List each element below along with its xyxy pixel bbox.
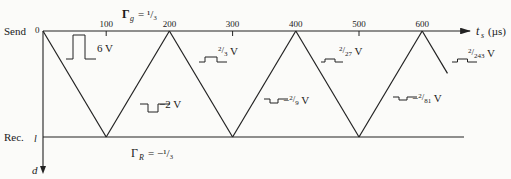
distance-axis-arrow-icon xyxy=(40,166,46,174)
gamma-g-symbol: Γ xyxy=(122,7,130,21)
bounce-segment-partial xyxy=(422,31,447,73)
bounce-diagram: 100200300400500600 6 V−2 V2/3 V−2/9 V2/2… xyxy=(0,0,511,179)
time-tick-label: 600 xyxy=(415,19,429,29)
time-tick-label: 200 xyxy=(163,19,177,29)
pulse-shapes: 6 V−2 V2/3 V−2/9 V2/27 V−2/81 V2/243 V xyxy=(66,35,495,112)
gamma-r-value: = −¹/₃ xyxy=(148,147,174,159)
bounce-segment xyxy=(233,31,296,137)
gamma-r-label: Γ R = −¹/₃ xyxy=(131,146,174,162)
gamma-g-sub: g xyxy=(130,14,134,23)
pulse-7: 2/243 V xyxy=(452,47,495,62)
time-axis-label-main: t xyxy=(476,24,480,38)
pulse-1: 6 V xyxy=(66,35,113,59)
time-tick-label: 500 xyxy=(352,19,366,29)
pulse-label: 6 V xyxy=(97,42,113,54)
pulse-shape xyxy=(199,57,227,62)
time-axis-units: (µs) xyxy=(488,25,506,38)
distance-axis-label: d xyxy=(32,164,38,176)
pulse-label: −2 V xyxy=(159,98,181,110)
pulse-shape xyxy=(66,35,96,59)
pulse-label: 2/27 V xyxy=(339,45,363,58)
gamma-g-label: Γ g = ¹/₃ xyxy=(122,7,157,23)
origin-zero-label: 0 xyxy=(35,25,40,35)
time-ticks: 100200300400500600 xyxy=(99,19,429,36)
pulse-3: 2/3 V xyxy=(199,45,238,62)
pulse-label: 2/3 V xyxy=(218,45,238,58)
pulse-label: −2/81 V xyxy=(412,92,442,105)
gamma-g-value: = ¹/₃ xyxy=(138,8,157,20)
pulse-shape xyxy=(321,59,343,62)
time-tick-label: 300 xyxy=(226,19,240,29)
pulse-5: 2/27 V xyxy=(321,45,363,62)
pulse-2: −2 V xyxy=(140,98,181,112)
time-tick-label: 400 xyxy=(289,19,303,29)
bounce-segment xyxy=(359,31,422,137)
receive-label: Rec. xyxy=(4,131,24,143)
bounce-segment xyxy=(106,31,169,137)
send-label: Send xyxy=(4,25,27,37)
time-axis-label: t s (µs) xyxy=(476,24,506,40)
pulse-label: 2/243 V xyxy=(468,47,495,60)
time-tick-label: 100 xyxy=(99,19,113,29)
pulse-6: −2/81 V xyxy=(393,92,442,105)
pulse-label: −2/9 V xyxy=(283,94,309,107)
time-axis-label-sub: s xyxy=(481,31,484,40)
gamma-r-sub: R xyxy=(138,153,144,162)
pulse-4: −2/9 V xyxy=(264,94,309,107)
distance-end-label: l xyxy=(34,133,37,144)
gamma-r-symbol: Γ xyxy=(131,146,138,160)
bounce-segment xyxy=(296,31,359,137)
